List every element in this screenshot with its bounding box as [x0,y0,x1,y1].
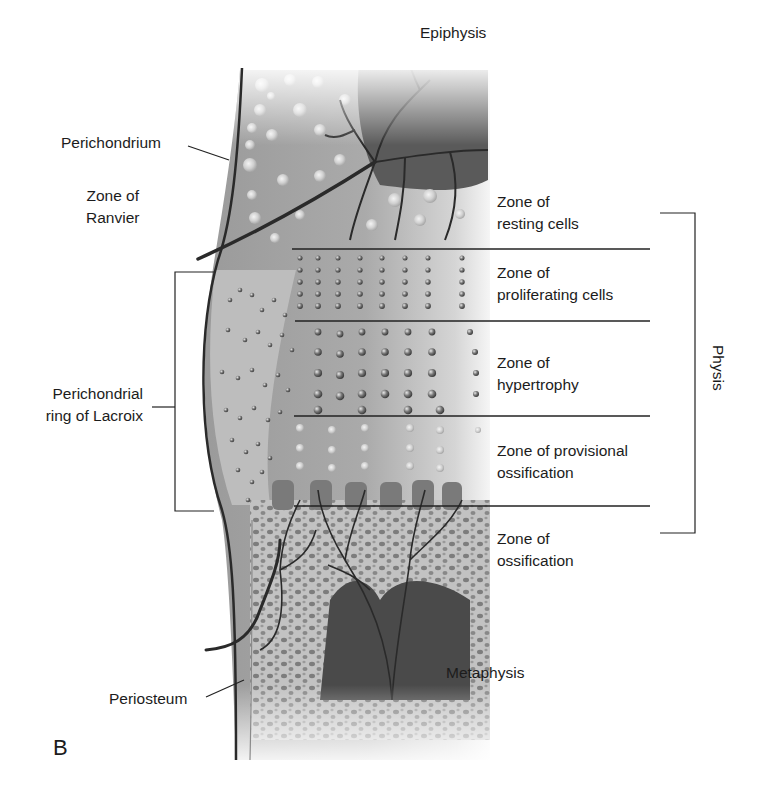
panel-letter: B [53,735,68,761]
label-perichondrium: Perichondrium [61,132,161,154]
physis-bracket [660,213,695,533]
label-periosteum: Periosteum [109,688,187,710]
perichondrium-leader [188,146,229,160]
label-epiphysis: Epiphysis [420,22,486,44]
label-zone-proliferating: Zone of proliferating cells [497,262,613,306]
label-zone-provisional-ossification: Zone of provisional ossification [497,440,628,484]
label-metaphysis: Metaphysis [446,662,524,684]
label-zone-of-ranvier: Zone of Ranvier [86,185,139,229]
bone-section [200,16,500,770]
label-zone-hypertrophy: Zone of hypertrophy [497,352,579,396]
label-zone-ossification: Zone of ossification [497,528,574,572]
label-zone-resting: Zone of resting cells [497,191,579,235]
label-perichondrial-ring-of-lacroix: Perichondrial ring of Lacroix [27,383,143,427]
label-physis: Physis [709,345,727,391]
